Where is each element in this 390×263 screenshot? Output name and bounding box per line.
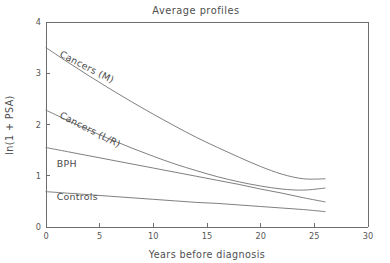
x-tick-label: 10 [148,231,158,241]
x-tick-label: 15 [202,231,212,241]
series-label-bph: BPH [57,158,77,169]
chart-background [0,0,390,263]
y-axis-title: ln(1 + PSA) [4,95,15,155]
series-label-controls: Controls [57,191,98,202]
chart-figure: Average profiles 051015202530 01234 Canc… [0,0,390,263]
x-tick-label: 25 [309,231,319,241]
chart-title: Average profiles [152,5,239,16]
x-tick-label: 0 [43,231,48,241]
x-tick-label: 30 [363,231,373,241]
y-tick-label: 4 [36,17,41,27]
y-tick-label: 3 [36,68,41,78]
x-axis-title: Years before diagnosis [148,249,265,260]
y-tick-label: 1 [36,171,41,181]
x-tick-label: 20 [255,231,265,241]
y-tick-label: 2 [36,120,41,130]
x-tick-label: 5 [97,231,102,241]
y-tick-label: 0 [36,222,41,232]
average-profiles-line-chart: Average profiles 051015202530 01234 Canc… [0,0,390,263]
